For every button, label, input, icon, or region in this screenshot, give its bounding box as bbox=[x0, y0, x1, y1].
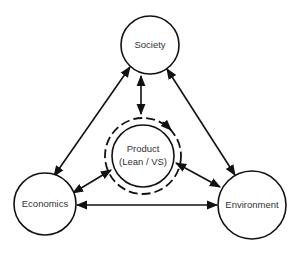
node-environment: Environment bbox=[218, 171, 286, 239]
sustainability-diagram: Society Product (Lean / VS) Economics En… bbox=[0, 0, 301, 253]
economics-label: Economics bbox=[22, 198, 69, 209]
cycle-arrow-icon bbox=[163, 122, 171, 130]
node-economics: Economics bbox=[14, 173, 76, 235]
society-label: Society bbox=[134, 39, 165, 50]
product-label-line1: Product bbox=[127, 143, 160, 154]
node-product: Product (Lean / VS) bbox=[105, 118, 181, 194]
edge-product-environment bbox=[176, 163, 220, 187]
edge-product-economics bbox=[73, 170, 111, 193]
edge-society-environment bbox=[167, 69, 235, 175]
environment-label: Environment bbox=[225, 199, 279, 210]
node-society: Society bbox=[121, 16, 179, 74]
product-label-line2: (Lean / VS) bbox=[119, 156, 167, 167]
